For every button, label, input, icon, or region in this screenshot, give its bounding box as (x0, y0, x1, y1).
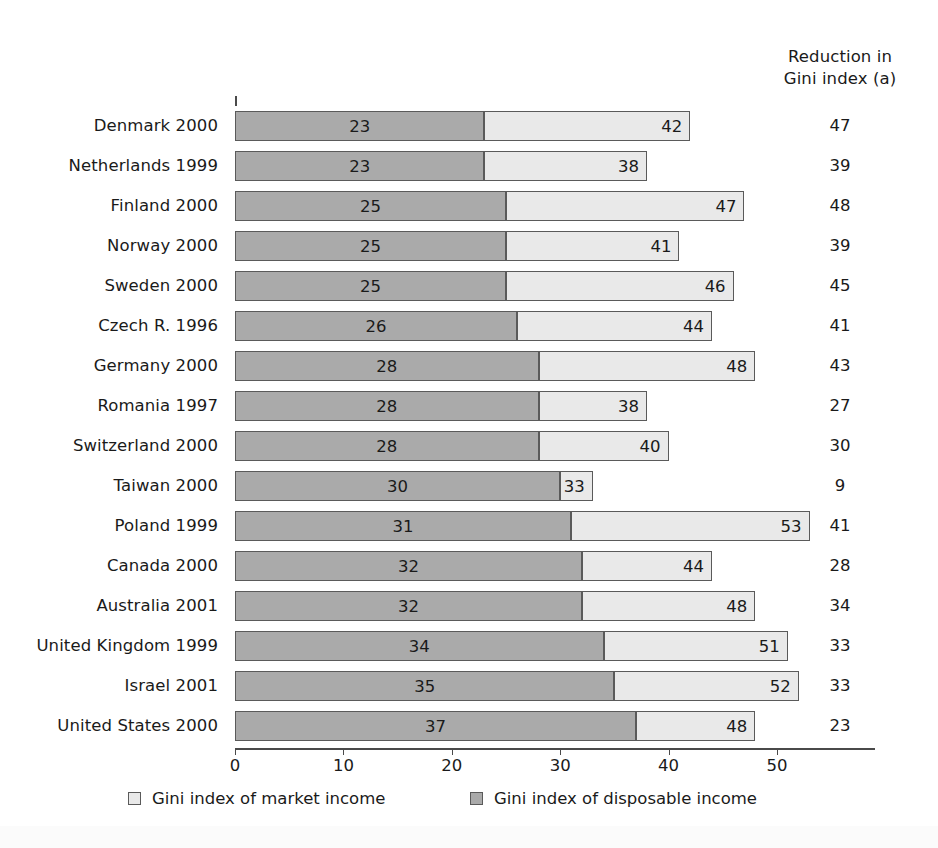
bar-segment-disposable-income: 34 (235, 631, 604, 661)
reduction-value: 9 (760, 466, 920, 506)
stacked-bar: 3828 (235, 391, 647, 421)
bar-segment-disposable-income: 37 (235, 711, 636, 741)
chart-row: Romania 1997382827 (0, 386, 938, 426)
stacked-bar: 4837 (235, 711, 755, 741)
bar-value-disposable-income: 28 (236, 392, 538, 422)
x-axis-tick-label: 30 (530, 756, 590, 775)
stacked-bar: 4625 (235, 271, 734, 301)
row-label: Israel 2001 (0, 666, 218, 706)
stacked-bar: 4432 (235, 551, 712, 581)
bar-segment-disposable-income: 23 (235, 111, 484, 141)
reduction-value: 41 (760, 506, 920, 546)
bar-value-disposable-income: 23 (236, 112, 483, 142)
stacked-bar: 4125 (235, 231, 679, 261)
bar-value-disposable-income: 28 (236, 432, 538, 462)
reduction-value: 23 (760, 706, 920, 746)
reduction-value: 27 (760, 386, 920, 426)
row-label: Czech R. 1996 (0, 306, 218, 346)
bar-segment-market-income: 42 (484, 111, 690, 141)
bar-segment-market-income: 38 (484, 151, 647, 181)
chart-row: Netherlands 1999382339 (0, 146, 938, 186)
reduction-column-header: Reduction in Gini index (a) (760, 46, 920, 90)
row-label: Australia 2001 (0, 586, 218, 626)
bar-segment-disposable-income: 32 (235, 551, 582, 581)
row-label: Denmark 2000 (0, 106, 218, 146)
x-axis-tick (560, 748, 561, 755)
bar-value-market-income: 48 (726, 352, 747, 382)
bar-segment-market-income: 47 (506, 191, 744, 221)
stacked-bar: 4832 (235, 591, 755, 621)
reduction-value: 41 (760, 306, 920, 346)
reduction-header-line-1: Reduction in (760, 46, 920, 68)
bar-value-disposable-income: 34 (236, 632, 603, 662)
row-label: Canada 2000 (0, 546, 218, 586)
bar-value-market-income: 44 (683, 552, 704, 582)
reduction-value: 34 (760, 586, 920, 626)
bar-value-market-income: 38 (618, 152, 639, 182)
bar-segment-market-income: 48 (636, 711, 755, 741)
x-axis-tick (777, 748, 778, 755)
bar-value-market-income: 47 (715, 192, 736, 222)
legend-swatch-market-icon (128, 792, 141, 805)
x-axis-tick (343, 748, 344, 755)
bar-value-disposable-income: 32 (236, 592, 581, 622)
bar-segment-disposable-income: 31 (235, 511, 571, 541)
bar-segment-disposable-income: 25 (235, 271, 506, 301)
bar-value-disposable-income: 32 (236, 552, 581, 582)
bar-segment-disposable-income: 35 (235, 671, 614, 701)
bar-segment-disposable-income: 23 (235, 151, 484, 181)
chart-row: Denmark 2000422347 (0, 106, 938, 146)
bar-value-market-income: 42 (661, 112, 682, 142)
bar-value-disposable-income: 26 (236, 312, 516, 342)
bar-value-market-income: 44 (683, 312, 704, 342)
reduction-value: 47 (760, 106, 920, 146)
row-label: Switzerland 2000 (0, 426, 218, 466)
chart-row: Finland 2000472548 (0, 186, 938, 226)
chart-row: Sweden 2000462545 (0, 266, 938, 306)
bar-value-disposable-income: 25 (236, 232, 505, 262)
reduction-value: 48 (760, 186, 920, 226)
bar-value-disposable-income: 31 (236, 512, 570, 542)
chart-row: Poland 1999533141 (0, 506, 938, 546)
axis-left-cap (235, 96, 237, 106)
reduction-value: 33 (760, 666, 920, 706)
x-axis-tick-label: 50 (747, 756, 807, 775)
chart-row: Czech R. 1996442641 (0, 306, 938, 346)
bar-segment-market-income: 38 (539, 391, 647, 421)
chart-row: United Kingdom 1999513433 (0, 626, 938, 666)
bar-value-market-income: 41 (650, 232, 671, 262)
bar-segment-disposable-income: 32 (235, 591, 582, 621)
stacked-bar: 4725 (235, 191, 744, 221)
bar-value-disposable-income: 23 (236, 152, 483, 182)
stacked-bar: 5331 (235, 511, 810, 541)
bar-segment-disposable-income: 25 (235, 231, 506, 261)
bar-value-disposable-income: 28 (236, 352, 538, 382)
bar-segment-market-income: 48 (582, 591, 755, 621)
reduction-value: 43 (760, 346, 920, 386)
bar-segment-market-income: 48 (539, 351, 756, 381)
stacked-bar: 4028 (235, 431, 669, 461)
legend-item-market-income: Gini index of market income (128, 786, 385, 810)
bar-segment-disposable-income: 28 (235, 351, 539, 381)
chart-row: Israel 2001523533 (0, 666, 938, 706)
stacked-bar: 4828 (235, 351, 755, 381)
reduction-value: 39 (760, 146, 920, 186)
bar-value-market-income: 48 (726, 712, 747, 742)
reduction-header-line-2: Gini index (a) (760, 68, 920, 90)
x-axis-tick-label: 10 (313, 756, 373, 775)
x-axis-tick (452, 748, 453, 755)
reduction-value: 45 (760, 266, 920, 306)
bar-value-disposable-income: 37 (236, 712, 635, 742)
row-label: Finland 2000 (0, 186, 218, 226)
legend-label-market-income: Gini index of market income (152, 789, 385, 808)
row-label: Germany 2000 (0, 346, 218, 386)
bar-segment-market-income: 44 (582, 551, 712, 581)
row-label: Romania 1997 (0, 386, 218, 426)
x-axis-tick (669, 748, 670, 755)
x-axis-tick (235, 748, 236, 755)
bar-value-market-income: 48 (726, 592, 747, 622)
row-label: Sweden 2000 (0, 266, 218, 306)
reduction-value: 28 (760, 546, 920, 586)
reduction-value: 30 (760, 426, 920, 466)
row-label: Taiwan 2000 (0, 466, 218, 506)
